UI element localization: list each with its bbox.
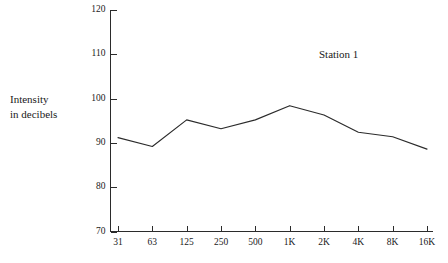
x-axis-tick-label: 500 — [248, 237, 263, 247]
y-axis: 708090100110120 — [91, 4, 116, 236]
x-axis-tick-label: 1K — [284, 237, 296, 247]
chart-container: Intensity in decibels 708090100110120 31… — [0, 0, 448, 263]
x-axis-tick-label: 63 — [148, 237, 158, 247]
x-axis-tick-label: 8K — [387, 237, 399, 247]
line-chart-svg: 708090100110120 31631252505001K2K4K8K16K… — [0, 0, 448, 263]
x-axis-tick-label: 2K — [318, 237, 330, 247]
x-axis-tick-label: 125 — [180, 237, 195, 247]
series-annotation-station-1: Station 1 — [319, 48, 358, 60]
y-axis-tick-labels: 708090100110120 — [91, 4, 106, 236]
x-axis-tick-labels: 31631252505001K2K4K8K16K — [113, 237, 435, 247]
x-axis-tick-label: 4K — [353, 237, 365, 247]
series-line-station-1 — [118, 106, 427, 149]
data-series-group — [118, 106, 427, 149]
y-axis-tick-label: 110 — [92, 48, 106, 58]
y-axis-tick-label: 120 — [91, 4, 106, 14]
x-axis-ticks — [119, 226, 428, 232]
y-axis-tick-label: 100 — [91, 93, 106, 103]
y-axis-ticks — [111, 11, 117, 233]
y-axis-tick-label: 80 — [96, 181, 106, 191]
x-axis-tick-label: 16K — [419, 237, 436, 247]
y-axis-tick-label: 70 — [96, 226, 106, 236]
annotation-group: Station 1 — [319, 48, 358, 60]
x-axis-tick-label: 31 — [113, 237, 123, 247]
y-axis-tick-label: 90 — [96, 137, 106, 147]
x-axis: 31631252505001K2K4K8K16K — [111, 226, 436, 247]
x-axis-tick-label: 250 — [214, 237, 229, 247]
